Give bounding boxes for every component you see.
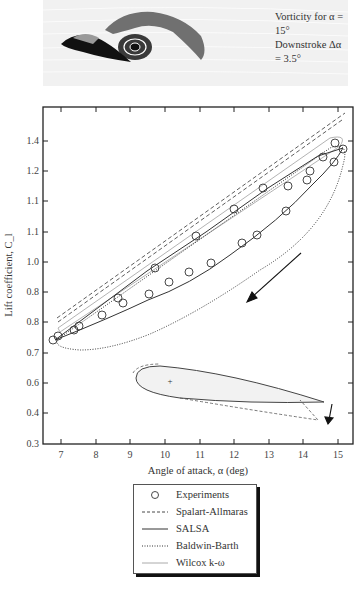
y-tick-label: 1.2 — [27, 165, 40, 176]
direction-arrow-icon — [247, 253, 301, 302]
airfoil-inset: + — [133, 364, 333, 424]
legend-label: Experiments — [176, 489, 229, 500]
series-baldwin-barth — [57, 146, 345, 350]
legend-item-salsa: SALSA — [134, 521, 256, 538]
downstroke-arrow-icon — [325, 404, 333, 424]
y-tick-label: 0.8 — [27, 286, 40, 297]
x-tick-label: 9 — [128, 449, 133, 460]
y-tick-label: 1.1 — [27, 226, 40, 237]
legend-item-experiments: Experiments — [134, 487, 256, 504]
lift-hysteresis-chart: 7 8 9 10 11 12 13 14 15 0.3 0.4 0.6 0.7 … — [0, 0, 362, 480]
svg-text:+: + — [167, 376, 172, 386]
y-tick-label: 0.7 — [27, 347, 40, 358]
x-tick-label: 8 — [94, 449, 99, 460]
x-tick-label: 12 — [229, 449, 239, 460]
y-tick-label: 0.8 — [27, 316, 40, 327]
legend-label: Wilcox k-ω — [176, 557, 225, 568]
y-tick-label: 0.3 — [27, 438, 40, 449]
legend-label: Spalart-Allmaras — [176, 506, 248, 517]
series-wilcox — [58, 137, 342, 332]
legend-item-spalart-allmaras: Spalart-Allmaras — [134, 504, 256, 521]
legend-label: SALSA — [176, 523, 209, 534]
y-tick-labels: 0.3 0.4 0.6 0.7 0.8 0.8 1.0 1.1 1.1 1.2 … — [27, 135, 40, 449]
legend-label: Baldwin-Barth — [176, 540, 238, 551]
x-tick-label: 15 — [333, 449, 343, 460]
legend-item-baldwin-barth: Baldwin-Barth — [134, 538, 256, 555]
y-tick-label: 1.4 — [27, 135, 40, 146]
legend-item-wilcox: Wilcox k-ω — [134, 555, 256, 572]
x-tick-labels: 7 8 9 10 11 12 13 14 15 — [59, 449, 344, 460]
series-salsa — [55, 148, 343, 340]
circle-marker-icon — [142, 490, 168, 500]
y-tick-label: 0.4 — [27, 407, 40, 418]
chart-legend: Experiments Spalart-Allmaras SALSA Baldw… — [133, 484, 257, 574]
x-tick-label: 11 — [195, 449, 205, 460]
x-tick-label: 14 — [298, 449, 308, 460]
y-axis-title: Lift coefficient, C_l — [3, 233, 14, 317]
x-tick-label: 10 — [160, 449, 170, 460]
dashed-line-icon — [142, 507, 168, 517]
solid-line-icon — [142, 524, 168, 534]
light-line-icon — [142, 558, 168, 568]
x-tick-label: 13 — [264, 449, 274, 460]
x-tick-label: 7 — [59, 449, 64, 460]
y-tick-label: 1.0 — [27, 256, 40, 267]
dotted-line-icon — [142, 541, 168, 551]
x-axis-title: Angle of attack, α (deg) — [148, 465, 249, 477]
series-experiments — [49, 139, 347, 344]
y-tick-label: 0.6 — [27, 377, 40, 388]
y-tick-label: 1.1 — [27, 195, 40, 206]
series-spalart-allmaras — [57, 113, 345, 322]
